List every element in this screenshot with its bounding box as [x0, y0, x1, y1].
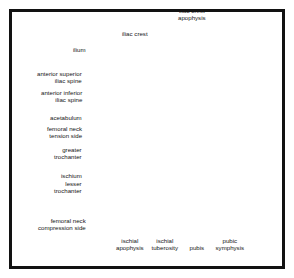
- label-femoral-neck-tension-side: femoral neck tension side: [47, 126, 82, 140]
- figure-root: iliac crest apophysisiliac crestiliumant…: [0, 0, 294, 278]
- label-pubic-symphysis: pubic symphysis: [216, 238, 245, 252]
- label-iliac-crest: iliac crest: [122, 31, 148, 38]
- label-ischial-apophysis: ischial apophysis: [116, 238, 144, 252]
- label-pubis: pubis: [190, 245, 205, 252]
- label-acetabulum: acetabulum: [50, 115, 82, 122]
- label-iliac-crest-apophysis: iliac crest apophysis: [178, 8, 206, 22]
- label-anterior-superior-iliac-spine: anterior superior iliac spine: [37, 71, 82, 85]
- label-lesser-trochanter: lesser trochanter: [54, 181, 82, 195]
- label-ischium: ischium: [61, 173, 82, 180]
- label-ischial-tuberosity: ischial tuberosity: [152, 238, 179, 252]
- label-ilium: ilium: [73, 47, 86, 54]
- label-femoral-neck-compression-side: femoral neck compression side: [38, 218, 86, 232]
- label-greater-trochanter: greater trochanter: [54, 147, 82, 161]
- label-anterior-inferior-iliac-spine: anterior inferior iliac spine: [41, 90, 82, 104]
